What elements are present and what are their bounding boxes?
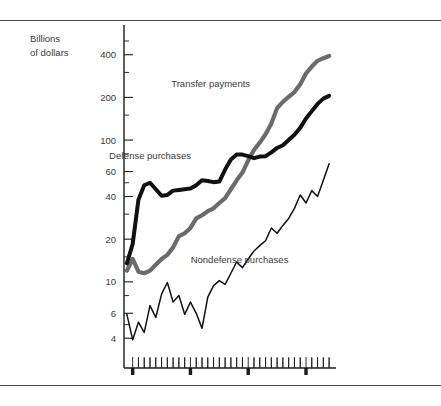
x-axis-tick-label: 1950 — [122, 381, 143, 384]
bottom-rule — [0, 385, 441, 386]
y-axis-tick-label: 200 — [100, 92, 116, 103]
series-line-defense-purchases — [127, 96, 329, 264]
top-rule — [0, 20, 441, 21]
figure-page: Billionsof dollars4002001006040201064195… — [0, 0, 441, 406]
x-axis-tick-label: 1960 — [180, 381, 201, 384]
series-annotation-transfer-payments: Transfer payments — [171, 78, 250, 89]
series-annotation-defense-purchases: Defense purchases — [109, 150, 191, 161]
y-axis-tick-label: 6 — [111, 308, 116, 319]
y-axis-tick-label: 60 — [105, 166, 116, 177]
x-axis-tick-label: 1984 — [319, 381, 340, 384]
y-axis-tick-label: 20 — [105, 234, 116, 245]
y-axis-title-line2: of dollars — [30, 47, 69, 58]
y-axis-tick-label: 40 — [105, 191, 116, 202]
x-axis-tick-label: 1980 — [295, 381, 316, 384]
chart-figure: Billionsof dollars4002001006040201064195… — [0, 22, 441, 384]
y-axis-title-line1: Billions — [30, 33, 60, 44]
y-axis-tick-label: 4 — [111, 333, 116, 344]
series-annotation-nondefense-purchases: Nondefense purchases — [191, 254, 289, 265]
y-axis-tick-label: 10 — [105, 276, 116, 287]
y-axis-tick-label: 400 — [100, 49, 116, 60]
y-axis-tick-label: 100 — [100, 135, 116, 146]
line-chart: Billionsof dollars4002001006040201064195… — [0, 22, 441, 384]
x-axis-tick-label: 1970 — [238, 381, 259, 384]
